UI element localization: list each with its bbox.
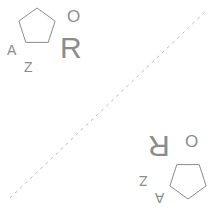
letter-z-upper: Z [24,60,33,74]
letter-a-upper: A [7,43,16,57]
letter-r-lower: R [148,131,170,161]
letter-a-lower: A [155,191,164,205]
letter-o-upper: O [67,8,80,25]
shapes-layer [0,0,208,209]
figure-canvas: A Z R O A Z R O [0,0,208,209]
letter-o-lower: O [185,132,198,149]
symmetry-axis-line [10,12,205,198]
letter-r-upper: R [60,33,82,63]
letter-z-lower: Z [139,174,148,188]
pentagon-lower-right [170,165,206,199]
pentagon-upper-left [19,8,55,42]
